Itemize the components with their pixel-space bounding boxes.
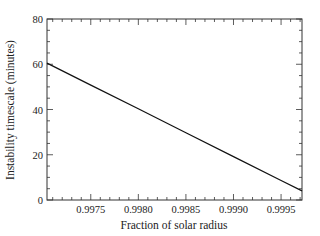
x-tick-label: 0.9975 xyxy=(76,204,105,215)
x-tick-label: 0.9990 xyxy=(219,204,248,215)
x-tick-label: 0.9980 xyxy=(124,204,153,215)
y-axis-ticks: 020406080 xyxy=(33,14,303,206)
y-tick-label: 40 xyxy=(33,105,44,116)
x-axis-title: Fraction of solar radius xyxy=(121,219,229,231)
x-axis-ticks: 0.99750.99800.99850.99900.9995 xyxy=(53,19,300,215)
y-tick-label: 60 xyxy=(33,59,44,70)
y-tick-label: 0 xyxy=(38,195,43,206)
x-tick-label: 0.9985 xyxy=(171,204,200,215)
line-chart: 0.99750.99800.99850.99900.9995 020406080… xyxy=(0,0,320,236)
x-tick-label: 0.9995 xyxy=(267,204,296,215)
y-tick-label: 80 xyxy=(33,14,44,25)
y-axis-title: Instability timescale (minutes) xyxy=(4,40,17,180)
y-tick-label: 20 xyxy=(33,150,44,161)
series-line xyxy=(47,63,302,191)
plot-frame xyxy=(47,19,302,200)
data-series xyxy=(47,63,302,191)
